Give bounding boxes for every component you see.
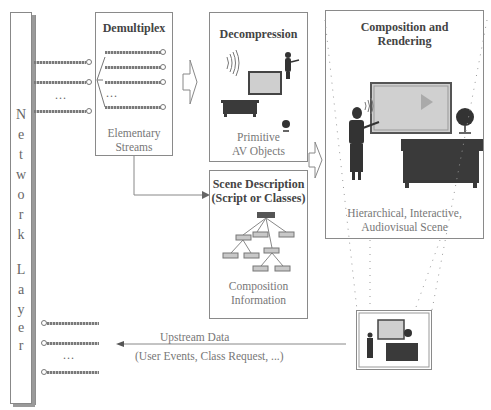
elementary-stream bbox=[105, 106, 161, 109]
network-layer-bar: N e t w o r k L a y e r bbox=[10, 12, 32, 404]
upstream-arrow bbox=[116, 340, 348, 348]
network-letter: w bbox=[11, 165, 31, 185]
stream-endpoint-icon bbox=[86, 59, 92, 65]
layer-letter: a bbox=[11, 280, 31, 300]
network-layer-shadow bbox=[32, 15, 36, 405]
stream-endpoint-icon bbox=[160, 79, 166, 85]
upstream-stream bbox=[47, 322, 99, 325]
layer-letter: L bbox=[11, 260, 31, 280]
stream-ellipsis: ... bbox=[55, 88, 67, 103]
incoming-stream bbox=[34, 81, 86, 84]
upstream-data-sublabel: (User Events, Class Request, ...) bbox=[135, 349, 335, 363]
elementary-stream bbox=[105, 51, 161, 54]
sound-wave-icon bbox=[227, 50, 239, 76]
stream-endpoint-icon bbox=[160, 49, 166, 55]
network-letter: N bbox=[11, 105, 31, 125]
elementary-stream bbox=[105, 66, 161, 69]
network-letter: k bbox=[11, 225, 31, 245]
layer-letter: r bbox=[11, 336, 31, 356]
layer-letter: e bbox=[11, 318, 31, 338]
stream-endpoint-icon bbox=[160, 64, 166, 70]
network-letter: o bbox=[11, 185, 31, 205]
globe-icon bbox=[282, 120, 290, 131]
upstream-stream bbox=[47, 342, 99, 345]
scene-thumbnail-illustration bbox=[356, 310, 432, 370]
screen-icon bbox=[249, 72, 281, 94]
layer-letter: y bbox=[11, 300, 31, 320]
presenter-icon bbox=[285, 52, 299, 79]
stream-endpoint-icon bbox=[86, 79, 92, 85]
network-letter: e bbox=[11, 125, 31, 145]
zoom-projection-lines bbox=[320, 0, 491, 330]
stream-endpoint-icon bbox=[160, 104, 166, 110]
stream-endpoint-icon bbox=[86, 108, 92, 114]
elementary-ellipsis: ... bbox=[106, 86, 118, 101]
desk-icon bbox=[221, 100, 259, 117]
primitive-av-objects-illustration bbox=[209, 12, 308, 162]
incoming-stream bbox=[34, 110, 86, 113]
network-letter: t bbox=[11, 145, 31, 165]
scene-tree-icon bbox=[209, 170, 308, 319]
upstream-ellipsis: ... bbox=[63, 348, 75, 363]
upstream-stream bbox=[47, 371, 99, 374]
elementary-stream bbox=[105, 81, 161, 84]
network-letter: r bbox=[11, 205, 31, 225]
flow-arrow-icon bbox=[182, 58, 198, 106]
incoming-stream bbox=[34, 61, 86, 64]
demux-to-scene-connector bbox=[130, 155, 212, 205]
